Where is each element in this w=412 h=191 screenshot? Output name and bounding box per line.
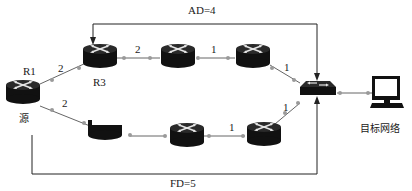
cost-r1-r3: 2 — [58, 62, 64, 74]
fd-arrowhead-icon — [314, 96, 320, 104]
cost-bottom-mid-bottom-right: 1 — [229, 121, 235, 133]
router-r1-icon — [6, 80, 40, 104]
ad-arrowhead-switch-icon — [314, 73, 320, 81]
router-top-right-icon — [236, 44, 270, 68]
target-network-label: 目标网络 — [360, 123, 400, 135]
cost-r1-bottom: 2 — [62, 97, 68, 109]
router-bottom-left-icon — [88, 120, 122, 140]
r3-label: R3 — [93, 76, 106, 88]
router-r3-icon — [83, 44, 117, 68]
router-bottom-right-icon — [247, 122, 281, 146]
ad-arrowhead-icon — [90, 37, 96, 45]
cost-top-right-switch: 1 — [284, 61, 290, 73]
router-bottom-mid-icon — [170, 123, 204, 147]
switch-icon — [300, 81, 336, 95]
cost-r3-top-mid: 2 — [135, 43, 141, 55]
router-top-mid-icon — [161, 44, 195, 68]
cost-top-mid-top-right: 1 — [211, 43, 217, 55]
computer-target-icon — [370, 76, 404, 108]
fd-label: FD=5 — [170, 177, 196, 189]
r1-label: R1 — [23, 65, 36, 77]
source-label: 源 — [19, 113, 29, 125]
cost-bottom-right-switch: 1 — [283, 101, 289, 113]
network-diagram: AD=4 FD=5 R1 R3 源 目标网络 2 2 2 1 1 1 1 — [0, 0, 412, 191]
ad-label: AD=4 — [188, 4, 216, 16]
